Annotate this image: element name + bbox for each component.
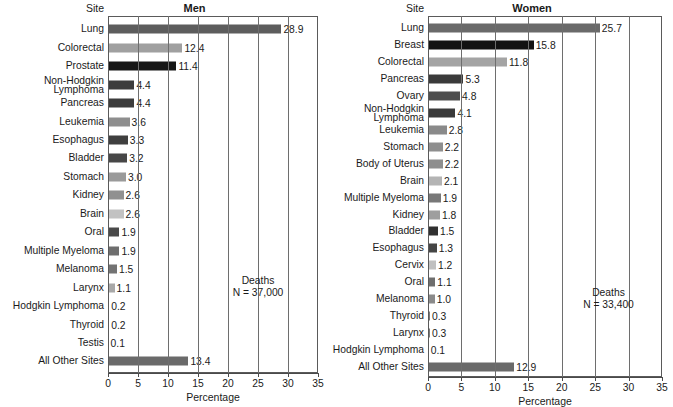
panel-title-women: Women	[512, 2, 552, 14]
category-label: Kidney	[330, 210, 424, 219]
bar-value-label: 1.2	[436, 260, 452, 271]
bar-row: Hodgkin Lymphoma0.1	[330, 341, 673, 358]
category-label: Multiple Myeloma	[330, 193, 424, 202]
bar-value-label: 4.4	[134, 98, 150, 109]
bar	[428, 261, 436, 270]
bar-value-label: 1.3	[437, 243, 453, 254]
category-label: Esophagus	[330, 244, 424, 253]
bar-value-label: 0.1	[429, 344, 445, 355]
deaths-annotation: DeathsN = 37,000	[233, 275, 284, 299]
axis-tick-label: 15	[523, 382, 534, 393]
category-label: Pancreas	[330, 75, 424, 84]
bar-value-label: 25.7	[600, 23, 622, 34]
bar-row: Cervix1.2	[330, 257, 673, 274]
bar	[108, 172, 126, 181]
bar	[428, 109, 455, 118]
category-label: Hodgkin Lymphoma	[0, 301, 104, 310]
axis-tick-label: 20	[222, 378, 233, 389]
axis-tick-label: 5	[459, 382, 465, 393]
bar-row: All Other Sites12.9	[330, 358, 673, 375]
bar-row: Larynx0.3	[330, 325, 673, 342]
deaths-label: Deaths	[233, 275, 284, 287]
bar-row: Bladder3.2	[0, 149, 330, 167]
bar-value-label: 0.2	[109, 319, 125, 330]
bar	[108, 283, 115, 292]
deaths-count: N = 33,400	[583, 299, 634, 311]
bar-row: Non-HodgkinLymphoma4.4	[0, 75, 330, 93]
bar-value-label: 2.2	[443, 141, 459, 152]
gridline	[228, 16, 229, 373]
bar-value-label: 1.5	[438, 226, 454, 237]
axis-tick	[228, 373, 229, 377]
bar	[428, 142, 443, 151]
axis-tick	[662, 377, 663, 381]
bar	[108, 265, 117, 274]
bar-row: Prostate11.4	[0, 57, 330, 75]
category-label: Leukemia	[330, 125, 424, 134]
category-label: Testis	[0, 338, 104, 347]
category-label: Body of Uterus	[330, 159, 424, 168]
axis-line	[428, 377, 662, 378]
axis-tick	[528, 377, 529, 381]
bar-row: Non-HodgkinLymphoma4.1	[330, 105, 673, 122]
bar	[428, 193, 441, 202]
bar-row: Thyroid0.2	[0, 315, 330, 333]
bar-row: Pancreas5.3	[330, 71, 673, 88]
bar	[428, 125, 447, 134]
bar	[108, 357, 188, 366]
category-label: Brain	[0, 209, 104, 218]
bar-row: Testis0.1	[0, 334, 330, 352]
bar	[428, 159, 443, 168]
axis-tick	[138, 373, 139, 377]
category-label: Colorectal	[0, 43, 104, 52]
bar-value-label: 11.8	[507, 57, 528, 68]
category-label: Pancreas	[0, 98, 104, 107]
bar	[428, 227, 438, 236]
bar	[428, 41, 534, 50]
panel-men: Site Men Lung28.9Colorectal12.4Prostate1…	[0, 0, 330, 405]
bar-value-label: 4.1	[455, 108, 471, 119]
axis-tick-label: 5	[135, 378, 141, 389]
category-label: Hodgkin Lymphoma	[330, 345, 424, 354]
bar-row: Lung28.9	[0, 20, 330, 38]
axis-tick-label: 10	[162, 378, 173, 389]
category-label: Prostate	[0, 61, 104, 70]
bar-value-label: 4.4	[134, 79, 150, 90]
panel-women-header: Site Women	[330, 2, 673, 18]
axis-tick-label: 20	[556, 382, 567, 393]
category-label: Esophagus	[0, 135, 104, 144]
category-label: All Other Sites	[0, 357, 104, 366]
bar	[108, 99, 134, 108]
bar-row: Lung25.7	[330, 20, 673, 37]
category-label: Stomach	[0, 172, 104, 181]
bar	[428, 278, 435, 287]
bar	[428, 295, 435, 304]
bar-row: Brain2.1	[330, 172, 673, 189]
axis-tick-label: 0	[425, 382, 431, 393]
axis-tick-label: 30	[623, 382, 634, 393]
bar-value-label: 3.0	[126, 171, 142, 182]
gridline	[495, 16, 496, 377]
bar	[428, 75, 463, 84]
bar	[108, 117, 130, 126]
bar	[428, 92, 460, 101]
gridline	[461, 16, 462, 377]
bar	[108, 191, 124, 200]
axis-tick	[318, 373, 319, 377]
bar-value-label: 28.9	[281, 24, 303, 35]
deaths-count: N = 37,000	[233, 287, 284, 299]
bar	[108, 43, 182, 52]
bar-value-label: 1.0	[435, 294, 451, 305]
bar-row: Leukemia3.6	[0, 112, 330, 130]
category-label: Thyroid	[0, 320, 104, 329]
bar	[428, 176, 442, 185]
bar-value-label: 0.2	[109, 301, 125, 312]
bar-row: Bladder1.5	[330, 223, 673, 240]
category-label: Larynx	[330, 328, 424, 337]
bar-value-label: 2.1	[442, 175, 458, 186]
axis-tick-label: 10	[489, 382, 500, 393]
bar-row: Multiple Myeloma1.9	[0, 242, 330, 260]
panel-title-men: Men	[184, 2, 206, 14]
category-label: Lung	[0, 25, 104, 34]
